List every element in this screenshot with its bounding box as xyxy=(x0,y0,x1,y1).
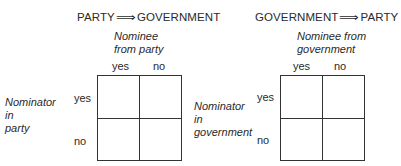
title-to: GOVERNMENT xyxy=(137,11,220,23)
row-yes-label: yes xyxy=(257,92,274,103)
row-header: Nominator in party xyxy=(5,96,56,135)
double-arrow-icon: ⟹ xyxy=(116,12,136,23)
title-from: GOVERNMENT xyxy=(255,11,338,23)
row-no-label: no xyxy=(257,135,269,146)
column-no-label: no xyxy=(334,61,346,72)
row-yes-label: yes xyxy=(74,93,91,104)
right-panel-title: GOVERNMENT⟹PARTY xyxy=(255,12,398,24)
column-yes-label: yes xyxy=(293,61,310,72)
left-panel-title: PARTY⟹GOVERNMENT xyxy=(77,12,220,24)
title-to: PARTY xyxy=(361,11,399,23)
row-no-label: no xyxy=(74,136,86,147)
two-by-two-grid xyxy=(97,75,182,161)
column-yes-label: yes xyxy=(112,61,129,72)
column-no-label: no xyxy=(153,61,165,72)
grid-horizontal-divider xyxy=(281,118,364,119)
double-arrow-icon: ⟹ xyxy=(339,12,359,23)
two-by-two-grid xyxy=(280,75,365,161)
grid-horizontal-divider xyxy=(98,118,181,119)
column-header: Nominee from party xyxy=(114,30,164,56)
column-header: Nominee from government xyxy=(297,30,366,56)
row-header: Nominator in government xyxy=(194,100,252,139)
title-from: PARTY xyxy=(77,11,115,23)
